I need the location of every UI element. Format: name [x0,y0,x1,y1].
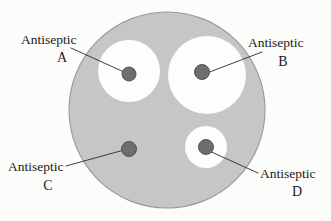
label-a-word: Antiseptic [21,32,77,47]
antiseptic-disk-c [122,142,137,157]
label-d-word: Antiseptic [260,166,316,181]
antiseptic-zone-diagram: Antiseptic A Antiseptic B Antiseptic C A… [0,0,331,221]
antiseptic-disk-d [199,140,214,155]
label-c-letter: C [43,178,52,193]
label-a-letter: A [57,50,68,65]
label-b-letter: B [278,54,287,69]
label-b-word: Antiseptic [248,35,304,50]
antiseptic-disk-b [195,65,210,80]
label-d-letter: D [292,184,302,199]
antiseptic-disk-a [122,67,136,81]
diagram-canvas: Antiseptic A Antiseptic B Antiseptic C A… [0,0,331,221]
label-c-word: Antiseptic [8,159,64,174]
agar-plate [69,12,265,208]
